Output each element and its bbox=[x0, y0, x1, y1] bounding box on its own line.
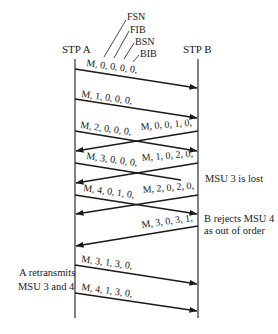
message-label-8: M, 2, 0, 2, 0, bbox=[142, 180, 194, 195]
field-label-fsn: FSN bbox=[127, 11, 145, 22]
message-arrow-11 bbox=[75, 293, 197, 311]
message-label-3: M, 2, 0, 0, 0, bbox=[80, 119, 132, 137]
leader-fsn bbox=[104, 20, 126, 57]
note-reject-line2: as out of order bbox=[204, 225, 265, 236]
field-label-bsn: BSN bbox=[135, 36, 154, 47]
note-retransmit-line2: MSU 3 and 4 bbox=[18, 281, 75, 292]
message-label-4: M, 0, 0, 1, 0, bbox=[140, 117, 192, 132]
message-label-6: M, 1, 0, 2, 0, bbox=[141, 148, 193, 163]
field-label-fib: FIB bbox=[130, 24, 146, 35]
message-label-10: M, 3, 1, 3, 0, bbox=[81, 253, 133, 271]
message-label-11: M, 4, 1, 3, 0, bbox=[81, 281, 133, 299]
note-retransmit-line1: A retransmits bbox=[19, 267, 75, 278]
sequence-diagram: STP A STP B FSN FIB BSN BIB M, 0, 0, 0, … bbox=[0, 0, 278, 334]
field-label-bib: BIB bbox=[140, 48, 157, 59]
message-arrow-10 bbox=[75, 265, 197, 284]
participant-stp-a: STP A bbox=[62, 43, 91, 55]
message-arrow-9 bbox=[76, 226, 198, 246]
note-msu-lost: MSU 3 is lost bbox=[205, 173, 263, 184]
leader-bsn bbox=[124, 43, 134, 59]
message-arrow-2 bbox=[75, 99, 197, 118]
note-reject-line1: B rejects MSU 4 bbox=[204, 213, 275, 224]
leader-bib bbox=[133, 55, 139, 62]
participant-stp-b: STP B bbox=[183, 43, 212, 55]
